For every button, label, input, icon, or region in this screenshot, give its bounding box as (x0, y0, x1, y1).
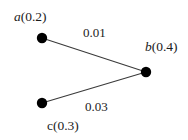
node-label-c: c(0.3) (47, 119, 79, 133)
node-label-b: b(0.4) (145, 40, 178, 54)
edge-a-b (42, 38, 146, 72)
node-c-value: (0.3) (53, 118, 79, 133)
node-a-value: (0.2) (21, 9, 47, 24)
node-c[interactable] (37, 98, 47, 108)
edge-label-a-b: 0.01 (83, 26, 106, 39)
node-a-symbol: a (14, 9, 21, 24)
node-label-a: a(0.2) (14, 10, 47, 24)
node-b-symbol: b (145, 39, 152, 54)
edge-label-c-b: 0.03 (85, 100, 108, 113)
node-b-value: (0.4) (152, 39, 178, 54)
edge-group (42, 38, 146, 103)
node-b[interactable] (141, 67, 151, 77)
node-a[interactable] (37, 33, 47, 43)
graph-figure: a(0.2) b(0.4) c(0.3) 0.01 0.03 (0, 0, 188, 140)
node-group (37, 33, 151, 108)
